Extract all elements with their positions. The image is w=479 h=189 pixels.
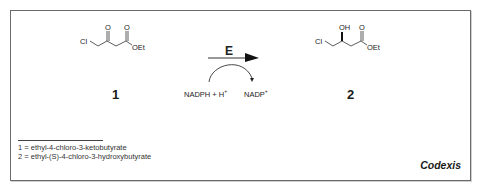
reaction-arrow[interactable] <box>208 53 259 62</box>
cofactor-curved-arrow <box>209 65 254 82</box>
product-oh-group: OH <box>339 23 350 32</box>
cofactor-out: NADP+ <box>244 88 268 99</box>
cofactor-out-charge: + <box>265 88 268 94</box>
product-cl-atom: Cl <box>315 37 322 46</box>
footnote-1: 1 = ethyl-4-chloro-3-ketobutyrate <box>18 143 127 152</box>
product-ester-o: O <box>359 23 365 32</box>
product-structure <box>325 31 367 46</box>
cofactor-in-text: NADPH + H <box>184 90 224 99</box>
cofactor-out-text: NADP <box>244 90 265 99</box>
brand-label: Codexis <box>420 159 461 171</box>
cofactor-in: NADPH + H+ <box>184 88 227 99</box>
reactant-ketone-o: O <box>105 23 111 32</box>
product-oet: OEt <box>367 43 381 52</box>
cofactor-in-charge: + <box>224 88 227 94</box>
footnote-divider <box>18 140 103 141</box>
footnote-2: 2 = ethyl-(S)-4-chloro-3-hydroxybutyrate <box>18 152 151 161</box>
reactant-number: 1 <box>112 87 119 102</box>
stereo-wedge <box>341 32 343 41</box>
reactant-oet: OEt <box>132 43 146 52</box>
enzyme-label: E <box>225 44 233 58</box>
reactant-cl-atom: Cl <box>80 37 87 46</box>
reactant-ester-o: O <box>124 23 130 32</box>
product-number: 2 <box>347 87 354 102</box>
reactant-structure <box>90 31 132 46</box>
